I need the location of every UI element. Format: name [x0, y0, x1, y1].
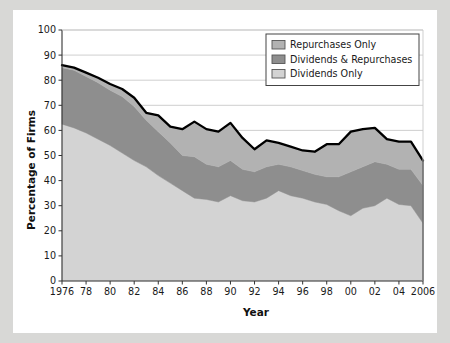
legend-swatch — [272, 41, 285, 50]
legend: Repurchases OnlyDividends & RepurchasesD… — [266, 34, 419, 86]
y-tick-label: 0 — [50, 275, 56, 286]
x-tick-label: 92 — [248, 286, 260, 297]
x-tick-label: 96 — [297, 286, 309, 297]
stacked-area-chart: 0102030405060708090100 19767880828486889… — [13, 10, 437, 333]
x-tick-label: 98 — [321, 286, 333, 297]
y-tick-label: 50 — [44, 150, 56, 161]
y-tick-label: 100 — [38, 24, 56, 35]
x-tick-label: 80 — [104, 286, 116, 297]
x-tick-label: 04 — [393, 286, 405, 297]
figure-card: 0102030405060708090100 19767880828486889… — [13, 10, 437, 333]
x-axis-title: Year — [242, 306, 270, 318]
x-tick-label: 78 — [80, 286, 92, 297]
y-tick-label: 70 — [44, 100, 56, 111]
area-series-group — [62, 65, 423, 281]
x-tick-label: 86 — [176, 286, 188, 297]
x-tick-label: 1976 — [50, 286, 74, 297]
y-axis-title: Percentage of Firms — [25, 110, 37, 230]
x-tick-label: 90 — [224, 286, 236, 297]
legend-label: Dividends Only — [290, 68, 363, 79]
legend-label: Repurchases Only — [290, 39, 377, 50]
x-tick-labels: 197678808284868890929496980002042006 — [50, 286, 435, 297]
x-tick-label: 02 — [369, 286, 381, 297]
y-tick-label: 40 — [44, 175, 56, 186]
y-tick-labels: 0102030405060708090100 — [38, 24, 56, 286]
x-tick-label: 00 — [345, 286, 357, 297]
y-tick-label: 30 — [44, 200, 56, 211]
x-tick-label: 84 — [152, 286, 164, 297]
y-tick-label: 10 — [44, 250, 56, 261]
x-tick-label: 2006 — [411, 286, 435, 297]
chart-canvas: 0102030405060708090100 19767880828486889… — [13, 10, 437, 333]
y-tick-label: 20 — [44, 225, 56, 236]
legend-label: Dividends & Repurchases — [290, 54, 412, 65]
y-tick-label: 80 — [44, 75, 56, 86]
x-tick-label: 88 — [200, 286, 212, 297]
x-tick-label: 94 — [272, 286, 284, 297]
legend-swatch — [272, 55, 285, 64]
legend-swatch — [272, 70, 285, 79]
y-tick-label: 60 — [44, 125, 56, 136]
y-tick-label: 90 — [44, 50, 56, 61]
x-tick-label: 82 — [128, 286, 140, 297]
